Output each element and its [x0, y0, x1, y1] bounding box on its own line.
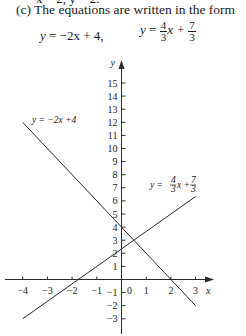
x-tick-label: −4	[17, 285, 28, 296]
svg-text:y =: y =	[149, 180, 163, 190]
y-tick-label: 3	[113, 235, 118, 246]
y-tick-label: −1	[107, 287, 118, 298]
x-axis-arrow-icon	[205, 277, 214, 283]
x-tick-label: 0	[127, 285, 132, 296]
y-tick-label: −3	[107, 313, 118, 324]
graph: xy−4−3−2−10123−3−2−112345678910111213141…	[0, 0, 246, 336]
y-tick-label: 7	[113, 182, 118, 193]
y-tick-label: 10	[108, 143, 118, 154]
svg-text:x +: x +	[176, 180, 190, 190]
y-tick-label: 4	[113, 222, 118, 233]
y-tick-label: 1	[113, 261, 118, 272]
y-tick-label: 12	[108, 117, 118, 128]
y-tick-label: 14	[108, 91, 118, 102]
x-tick-label: 1	[144, 285, 149, 296]
y-tick-label: 13	[108, 104, 118, 115]
x-tick-label: −3	[42, 285, 53, 296]
line-label-2: y =43x +73	[149, 175, 197, 194]
y-tick-label: 8	[113, 169, 118, 180]
y-tick-label: 15	[108, 78, 118, 89]
line-label-1: y = −2x +4	[31, 115, 77, 125]
y-tick-label: 9	[113, 156, 118, 167]
y-tick-label: 6	[113, 195, 118, 206]
y-axis-label: y	[110, 57, 116, 68]
x-axis-label: x	[205, 285, 211, 296]
svg-text:3: 3	[170, 184, 176, 194]
y-axis-arrow-icon	[119, 60, 125, 69]
y-tick-label: 11	[108, 130, 118, 141]
x-tick-label: 2	[168, 285, 173, 296]
x-tick-label: 3	[193, 285, 198, 296]
x-tick-label: −1	[91, 285, 102, 296]
y-tick-label: −2	[107, 300, 118, 311]
svg-text:3: 3	[190, 184, 196, 194]
